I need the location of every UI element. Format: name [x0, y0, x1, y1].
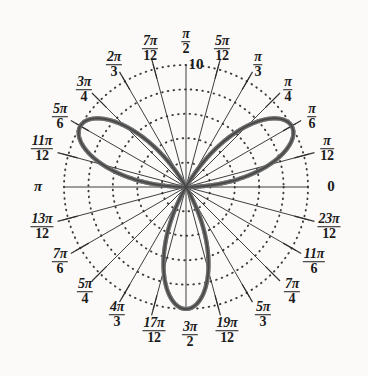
angular-tick-label-5pi-4: 5π4	[77, 277, 93, 307]
fraction-numerator: 3π	[182, 320, 198, 335]
fraction-numerator: 19π	[215, 316, 238, 331]
fraction-denominator: 12	[320, 150, 334, 164]
angular-tick-label-pi-3: π3	[253, 50, 262, 80]
angular-tick-text: π	[34, 179, 42, 194]
angular-tick-text: 0	[327, 179, 334, 194]
fraction-numerator: 17π	[142, 316, 165, 331]
fraction: 23π12	[317, 212, 340, 242]
fraction-numerator: 7π	[52, 247, 68, 262]
fraction: 7π4	[284, 277, 300, 307]
fraction-numerator: 23π	[317, 212, 340, 227]
angular-tick-label-3pi-4: 3π4	[76, 75, 92, 105]
fraction-numerator: 3π	[76, 75, 92, 90]
fraction-denominator: 12	[30, 228, 53, 242]
radial-max-label: 10	[189, 56, 204, 73]
fraction-numerator: 11π	[31, 134, 53, 149]
fraction-denominator: 6	[303, 263, 325, 277]
fraction-numerator: 4π	[109, 300, 125, 315]
fraction-denominator: 12	[31, 150, 53, 164]
angular-tick-label-pi-4: π4	[283, 75, 292, 105]
angular-tick-label-11pi-6: 11π6	[303, 247, 325, 277]
fraction-denominator: 12	[142, 332, 165, 346]
fraction: 19π12	[215, 316, 238, 346]
angular-tick-label-0: 0	[327, 179, 334, 194]
fraction-denominator: 12	[142, 50, 158, 64]
fraction: 5π4	[77, 277, 93, 307]
fraction-numerator: 13π	[30, 212, 53, 227]
angular-tick-label-11pi-12: 11π12	[31, 134, 53, 164]
angular-tick-label-7pi-4: 7π4	[284, 277, 300, 307]
fraction-denominator: 12	[214, 50, 230, 64]
fraction: π2	[181, 27, 190, 57]
fraction: π4	[283, 75, 292, 105]
angular-tick-label-19pi-12: 19π12	[215, 316, 238, 346]
fraction-denominator: 6	[52, 118, 68, 132]
fraction-denominator: 12	[317, 228, 340, 242]
fraction: 3π4	[76, 75, 92, 105]
angular-tick-label-13pi-12: 13π12	[30, 212, 53, 242]
fraction-denominator: 2	[182, 336, 198, 350]
fraction: 2π3	[106, 50, 122, 80]
angular-tick-label-pi-12: π12	[320, 134, 334, 164]
fraction: 17π12	[142, 316, 165, 346]
fraction: 7π12	[142, 34, 158, 64]
fraction-denominator: 12	[215, 332, 238, 346]
angular-tick-label-7pi-12: 7π12	[142, 34, 158, 64]
fraction: 11π6	[303, 247, 325, 277]
fraction-numerator: 5π	[52, 102, 68, 117]
angular-tick-label-5pi-3: 5π3	[255, 300, 271, 330]
fraction-denominator: 3	[253, 66, 262, 80]
angular-tick-label-5pi-6: 5π6	[52, 102, 68, 132]
fraction: π3	[253, 50, 262, 80]
fraction-denominator: 3	[109, 316, 125, 330]
fraction: 4π3	[109, 300, 125, 330]
fraction-numerator: 5π	[255, 300, 271, 315]
fraction-numerator: π	[181, 27, 190, 42]
fraction-numerator: 5π	[214, 34, 230, 49]
fraction-numerator: 2π	[106, 50, 122, 65]
angular-tick-label-4pi-3: 4π3	[109, 300, 125, 330]
fraction-denominator: 4	[76, 91, 92, 105]
fraction: π6	[307, 102, 316, 132]
fraction-denominator: 4	[77, 293, 93, 307]
fraction: 13π12	[30, 212, 53, 242]
angular-tick-label-23pi-12: 23π12	[317, 212, 340, 242]
fraction-numerator: 5π	[77, 277, 93, 292]
fraction-denominator: 6	[52, 263, 68, 277]
fraction-numerator: 11π	[303, 247, 325, 262]
fraction: 7π6	[52, 247, 68, 277]
fraction: π12	[320, 134, 334, 164]
angular-tick-label-pi: π	[34, 179, 42, 194]
fraction-numerator: 7π	[142, 34, 158, 49]
fraction: 5π3	[255, 300, 271, 330]
fraction-denominator: 6	[307, 118, 316, 132]
fraction-numerator: π	[320, 134, 334, 149]
fraction: 5π6	[52, 102, 68, 132]
fraction-numerator: 7π	[284, 277, 300, 292]
fraction-numerator: π	[253, 50, 262, 65]
polar-rose-figure: 0π12π6π4π35π12π27π122π33π45π611π12π13π12…	[0, 0, 368, 376]
fraction: 11π12	[31, 134, 53, 164]
fraction-denominator: 4	[284, 293, 300, 307]
angular-tick-label-3pi-2: 3π2	[182, 320, 198, 350]
angular-tick-label-pi-2: π2	[181, 27, 190, 57]
angular-tick-label-2pi-3: 2π3	[106, 50, 122, 80]
fraction-numerator: π	[307, 102, 316, 117]
fraction: 5π12	[214, 34, 230, 64]
fraction-numerator: π	[283, 75, 292, 90]
fraction-denominator: 4	[283, 91, 292, 105]
angular-tick-label-17pi-12: 17π12	[142, 316, 165, 346]
angular-tick-label-7pi-6: 7π6	[52, 247, 68, 277]
fraction-denominator: 3	[255, 316, 271, 330]
angular-tick-label-5pi-12: 5π12	[214, 34, 230, 64]
angular-tick-label-pi-6: π6	[307, 102, 316, 132]
fraction-denominator: 3	[106, 66, 122, 80]
fraction: 3π2	[182, 320, 198, 350]
